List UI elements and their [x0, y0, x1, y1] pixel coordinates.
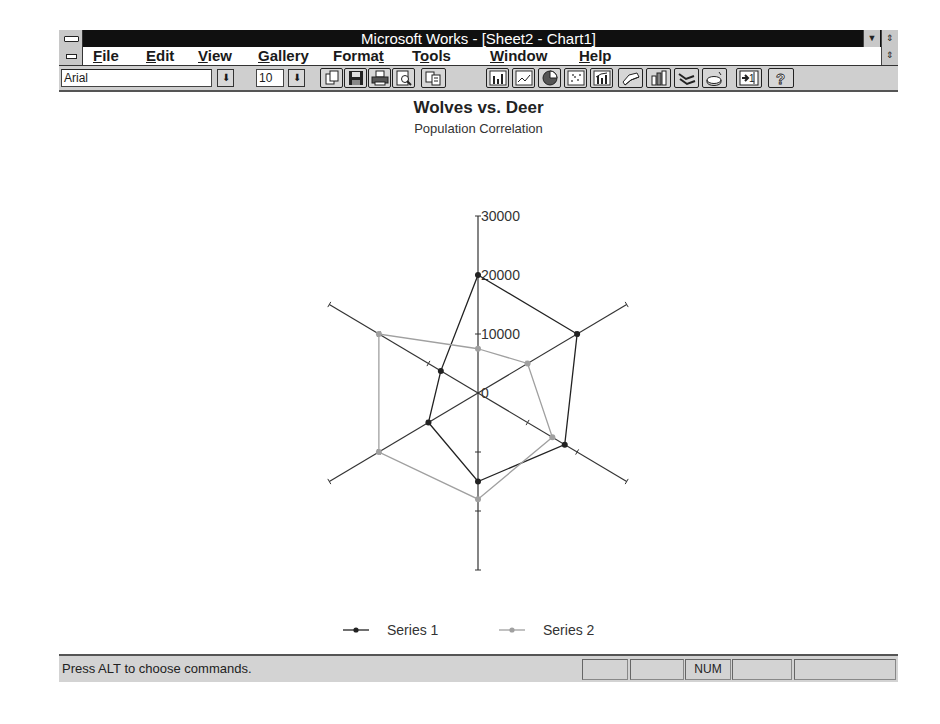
menu-bar: File Edit View Gallery Format Tools Wind…: [59, 47, 898, 66]
toolbar: Arial ⬇ 10 ⬇: [59, 66, 898, 92]
control-menu-icon: [66, 54, 77, 59]
go-to-sheet-icon: 1: [739, 70, 760, 86]
radar-series-polygon: [379, 334, 552, 499]
chart-legend: Series 1Series 2: [343, 622, 595, 638]
line-chart-button[interactable]: [512, 68, 535, 88]
3d-line-chart-button[interactable]: [674, 68, 699, 88]
copy-icon: [424, 70, 444, 86]
3d-area-chart-icon: [621, 70, 641, 86]
print-preview-button[interactable]: [392, 68, 415, 88]
restore-button[interactable]: ⇕: [881, 30, 898, 47]
restore-icon: ⇕: [886, 33, 894, 43]
document-restore-button[interactable]: ⇕: [881, 47, 898, 65]
font-size-dropdown-button[interactable]: ⬇: [288, 69, 305, 87]
dropdown-arrow-icon: ⬇: [293, 72, 301, 83]
status-panel-2: [630, 659, 684, 680]
accel-key: G: [258, 47, 270, 64]
new-chart-button[interactable]: [320, 68, 343, 88]
radar-axis-line: [329, 393, 478, 482]
radar-data-point: [425, 420, 431, 426]
menu-tools[interactable]: Tools: [412, 47, 451, 65]
save-icon: [347, 70, 365, 86]
status-bar: Press ALT to choose commands. NUM: [59, 654, 898, 682]
combination-chart-icon: [593, 70, 611, 86]
radar-data-point: [376, 331, 382, 337]
accel-key: t: [379, 47, 384, 64]
radar-data-point: [475, 272, 481, 278]
accel-key: H: [579, 47, 590, 64]
3d-bar-chart-icon: [649, 70, 669, 86]
line-chart-icon: [515, 70, 533, 86]
font-size-input[interactable]: 10: [256, 69, 284, 87]
radar-tick-label: 10000: [481, 326, 520, 342]
menu-view[interactable]: View: [198, 47, 232, 65]
radar-axis-line: [329, 305, 478, 394]
chart-area[interactable]: Wolves vs. Deer Population Correlation 0…: [59, 92, 898, 654]
3d-pie-chart-icon: [705, 70, 725, 86]
window-title: Microsoft Works - [Sheet2 - Chart1]: [59, 30, 898, 47]
help-icon: ?: [771, 70, 792, 86]
radar-data-point: [549, 434, 555, 440]
print-button[interactable]: [368, 68, 391, 88]
radar-data-point: [438, 368, 444, 374]
scatter-chart-button[interactable]: [564, 68, 587, 88]
help-button[interactable]: ?: [768, 68, 794, 88]
menu-gallery[interactable]: Gallery: [258, 47, 309, 65]
status-panel-5: [794, 659, 896, 680]
new-icon: [323, 70, 341, 86]
legend-marker-icon: [353, 627, 358, 632]
menu-label: elp: [590, 47, 612, 64]
3d-line-chart-icon: [677, 70, 697, 86]
menu-label: iew: [208, 47, 232, 64]
combination-chart-button[interactable]: [590, 68, 613, 88]
status-panel-1: [582, 659, 628, 680]
status-panel-4: [732, 659, 792, 680]
status-panel-num: NUM: [685, 659, 731, 680]
pie-chart-icon: [541, 70, 559, 86]
menu-format[interactable]: Format: [333, 47, 384, 65]
legend-label: Series 2: [543, 622, 595, 638]
pie-chart-button[interactable]: [538, 68, 561, 88]
title-bar[interactable]: Microsoft Works - [Sheet2 - Chart1] ▼ ⇕: [59, 30, 898, 47]
radar-data-point: [562, 442, 568, 448]
radar-data-point: [525, 361, 531, 367]
document-control-menu-button[interactable]: [59, 47, 83, 65]
print-icon: [371, 70, 389, 86]
bar-chart-button[interactable]: [486, 68, 509, 88]
go-to-sheet-button[interactable]: 1: [736, 68, 762, 88]
menu-file[interactable]: File: [93, 47, 119, 65]
restore-icon: ⇕: [886, 50, 894, 60]
menu-label: allery: [270, 47, 309, 64]
status-message: Press ALT to choose commands.: [62, 661, 252, 676]
3d-pie-chart-button[interactable]: [702, 68, 727, 88]
font-name-dropdown-button[interactable]: ⬇: [217, 69, 234, 87]
radar-axis-line: [478, 305, 627, 394]
radar-axes: [328, 216, 628, 570]
font-name-input[interactable]: Arial: [61, 69, 212, 87]
save-button[interactable]: [344, 68, 367, 88]
legend-marker-icon: [509, 627, 514, 632]
radar-data-point: [475, 346, 481, 352]
menu-help[interactable]: Help: [579, 47, 612, 65]
accel-key: V: [198, 47, 208, 64]
menu-label: T: [412, 47, 420, 64]
radar-data-point: [475, 496, 481, 502]
preview-icon: [395, 70, 413, 86]
minimize-icon: ▼: [868, 33, 877, 43]
3d-area-chart-button[interactable]: [618, 68, 643, 88]
accel-key: F: [93, 47, 102, 64]
menu-label: indow: [504, 47, 547, 64]
3d-bar-chart-button[interactable]: [646, 68, 671, 88]
menu-window[interactable]: Window: [490, 47, 547, 65]
menu-edit[interactable]: Edit: [146, 47, 174, 65]
menu-label: dit: [156, 47, 174, 64]
legend-label: Series 1: [387, 622, 439, 638]
radar-data-point: [475, 479, 481, 485]
scatter-chart-icon: [567, 70, 585, 86]
minimize-button[interactable]: ▼: [863, 30, 880, 47]
app-window: Microsoft Works - [Sheet2 - Chart1] ▼ ⇕ …: [59, 30, 898, 682]
radar-data-point: [574, 331, 580, 337]
radar-data-point: [376, 449, 382, 455]
radar-tick-label: 0: [481, 385, 489, 401]
copy-button[interactable]: [421, 68, 446, 88]
